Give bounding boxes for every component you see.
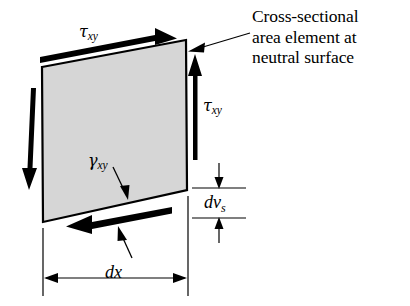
callout-line-1: Cross-sectional [252, 6, 358, 27]
gamma-xy-label: γxy [88, 151, 107, 173]
left-shear-arrow [22, 88, 37, 190]
gamma-subscript: xy [98, 159, 108, 171]
dvs-subscript: s [221, 201, 226, 215]
dvs-symbol: dv [204, 192, 221, 212]
callout-line-2: area element at [252, 27, 358, 48]
area-element-parallelogram [42, 40, 187, 222]
callout-line-3: neutral surface [252, 47, 358, 68]
tau-xy-right-label: τxy [203, 96, 222, 118]
tau-subscript-right: xy [212, 104, 222, 116]
dx-symbol: dx [105, 262, 122, 282]
tau-symbol-right: τ [203, 96, 212, 115]
tau-symbol-top: τ [79, 22, 88, 41]
tau-xy-top-label: τxy [79, 22, 98, 44]
dvs-dimension-label: dvs [204, 192, 226, 215]
tau-subscript-top: xy [88, 30, 98, 42]
right-shear-arrow [188, 54, 202, 160]
callout-caption: Cross-sectional area element at neutral … [252, 6, 358, 68]
callout-leader [188, 33, 250, 53]
figure-canvas: Cross-sectional area element at neutral … [0, 0, 410, 306]
shear-angle-leader [118, 226, 133, 258]
gamma-symbol: γ [88, 151, 98, 170]
dx-dimension-label: dx [105, 262, 122, 283]
